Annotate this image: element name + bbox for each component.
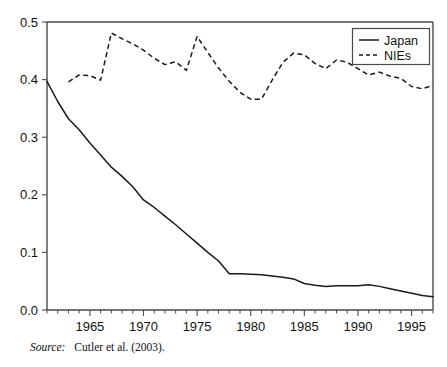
y-axis-tick-labels: 0.00.10.20.30.40.5 (20, 15, 38, 318)
x-tick-label: 1995 (397, 319, 426, 334)
x-axis-tick-labels: 1965197019751980198519901995 (75, 319, 426, 334)
y-tick-label: 0.3 (20, 130, 38, 145)
line-chart: 0.00.10.20.30.40.5 196519701975198019851… (0, 0, 447, 367)
x-tick-label: 1965 (75, 319, 104, 334)
x-tick-label: 1975 (183, 319, 212, 334)
y-tick-label: 0.4 (20, 72, 38, 87)
chart-legend[interactable]: Japan NIEs (353, 29, 430, 65)
y-tick-label: 0.5 (20, 15, 38, 30)
x-tick-label: 1980 (236, 319, 265, 334)
y-axis-ticks (42, 22, 47, 310)
figure-container: 0.00.10.20.30.40.5 196519701975198019851… (0, 0, 447, 367)
x-tick-label: 1990 (343, 319, 372, 334)
legend-label-japan: Japan (384, 34, 418, 48)
x-tick-label: 1985 (290, 319, 319, 334)
y-tick-label: 0.1 (20, 245, 38, 260)
y-tick-label: 0.0 (20, 303, 38, 318)
legend-label-nies: NIEs (384, 49, 411, 63)
source-text: Cutler et al. (2003). (74, 341, 164, 353)
y-tick-label: 0.2 (20, 187, 38, 202)
source-note: Source:Cutler et al. (2003). (30, 341, 165, 353)
x-tick-label: 1970 (129, 319, 158, 334)
plot-area-background (47, 22, 433, 310)
x-axis-minor-ticks (47, 310, 433, 316)
source-label: Source: (30, 341, 65, 353)
